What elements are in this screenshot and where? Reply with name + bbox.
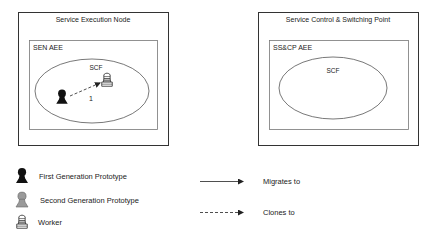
first-generation-prototype-icon	[16, 168, 28, 183]
node-frame	[19, 13, 169, 146]
second-generation-prototype-icon	[16, 192, 28, 207]
aee-frame	[270, 41, 409, 130]
diagram-canvas: Service Execution Node SEN AEE SCF 1 Ser…	[0, 0, 425, 239]
legend-label: First Generation Prototype	[39, 172, 127, 181]
first-generation-prototype-icon	[56, 89, 68, 103]
node-service-control-switching-point: Service Control & Switching Point SS&CP …	[259, 13, 419, 146]
step-label: 1	[89, 95, 93, 102]
node-title: Service Execution Node	[56, 16, 131, 23]
legend-label: Clones to	[263, 208, 295, 217]
aee-label: SEN AEE	[33, 44, 63, 51]
worker-icon	[102, 73, 113, 86]
legend-arrow-item: Migrates to	[200, 177, 300, 186]
legend-item: First Generation Prototype	[16, 168, 127, 183]
node-frame	[259, 13, 419, 146]
legend-label: Migrates to	[263, 177, 300, 186]
clones-to-arrow	[70, 83, 100, 96]
worker-icon	[17, 215, 28, 228]
legend-item: Worker	[17, 215, 63, 228]
legend-label: Second Generation Prototype	[40, 196, 139, 205]
legend-item: Second Generation Prototype	[16, 192, 139, 207]
scf-label: SCF	[90, 64, 103, 71]
aee-label: SS&CP AEE	[273, 44, 313, 51]
node-service-execution-node: Service Execution Node SEN AEE SCF 1	[19, 13, 169, 146]
node-title: Service Control & Switching Point	[286, 16, 390, 24]
legend: First Generation Prototype Second Genera…	[16, 168, 300, 228]
legend-arrow-item: Clones to	[200, 208, 295, 217]
scf-label: SCF	[327, 67, 340, 74]
aee-frame	[30, 41, 158, 130]
legend-label: Worker	[38, 218, 63, 227]
